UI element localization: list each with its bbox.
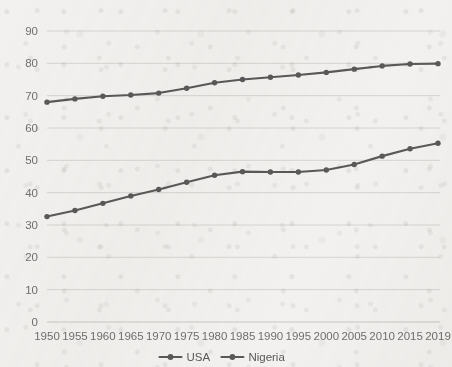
x-tick-1985: 1985 bbox=[230, 330, 256, 342]
data-point-nigeria-2005 bbox=[352, 162, 357, 167]
data-point-usa-2015 bbox=[407, 61, 412, 66]
y-tick-10: 10 bbox=[25, 284, 38, 296]
legend-label-usa: USA bbox=[187, 351, 211, 363]
data-point-nigeria-1985 bbox=[240, 169, 245, 174]
x-tick-1965: 1965 bbox=[118, 330, 144, 342]
data-point-usa-1960 bbox=[100, 94, 105, 99]
series-line-usa bbox=[47, 64, 438, 102]
x-axis-tick-labels: 1950195519601965197019751980198519901995… bbox=[34, 330, 451, 342]
chart-legend: USANigeria bbox=[160, 351, 286, 363]
legend-marker-icon bbox=[168, 354, 174, 360]
series-usa bbox=[44, 61, 440, 105]
x-tick-1980: 1980 bbox=[202, 330, 228, 342]
data-point-nigeria-2019 bbox=[435, 140, 440, 145]
x-tick-1970: 1970 bbox=[146, 330, 172, 342]
y-tick-40: 40 bbox=[25, 187, 38, 199]
y-tick-60: 60 bbox=[25, 122, 38, 134]
data-point-usa-1965 bbox=[128, 92, 133, 97]
data-point-usa-1975 bbox=[184, 86, 189, 91]
y-tick-20: 20 bbox=[25, 251, 38, 263]
y-tick-70: 70 bbox=[25, 90, 38, 102]
data-point-usa-2000 bbox=[324, 70, 329, 75]
data-point-usa-1970 bbox=[156, 90, 161, 95]
y-tick-50: 50 bbox=[25, 154, 38, 166]
x-tick-1975: 1975 bbox=[174, 330, 200, 342]
data-point-nigeria-1950 bbox=[44, 214, 49, 219]
data-point-usa-2010 bbox=[379, 63, 384, 68]
data-point-usa-1985 bbox=[240, 77, 245, 82]
x-tick-1960: 1960 bbox=[90, 330, 116, 342]
x-tick-2010: 2010 bbox=[369, 330, 395, 342]
legend-label-nigeria: Nigeria bbox=[248, 351, 285, 363]
line-chart: 0102030405060708090 19501955196019651970… bbox=[0, 0, 452, 367]
data-point-nigeria-1995 bbox=[296, 169, 301, 174]
data-point-nigeria-1965 bbox=[128, 193, 133, 198]
data-point-nigeria-1975 bbox=[184, 180, 189, 185]
data-point-usa-1995 bbox=[296, 72, 301, 77]
series-line-nigeria bbox=[47, 143, 438, 216]
data-point-usa-1950 bbox=[44, 99, 49, 104]
x-tick-1990: 1990 bbox=[258, 330, 284, 342]
gridlines bbox=[47, 31, 440, 322]
data-point-nigeria-2015 bbox=[407, 146, 412, 151]
data-point-nigeria-1955 bbox=[72, 208, 77, 213]
y-tick-90: 90 bbox=[25, 25, 38, 37]
series-layer bbox=[44, 61, 440, 219]
y-tick-80: 80 bbox=[25, 57, 38, 69]
series-nigeria bbox=[44, 140, 440, 219]
y-tick-30: 30 bbox=[25, 219, 38, 231]
data-point-nigeria-1970 bbox=[156, 187, 161, 192]
legend-item-nigeria[interactable]: Nigeria bbox=[221, 351, 285, 363]
data-point-usa-1955 bbox=[72, 96, 77, 101]
data-point-nigeria-1990 bbox=[268, 169, 273, 174]
data-point-usa-1980 bbox=[212, 80, 217, 85]
x-tick-1955: 1955 bbox=[62, 330, 88, 342]
chart-canvas: 0102030405060708090 19501955196019651970… bbox=[0, 0, 452, 367]
data-point-usa-1990 bbox=[268, 75, 273, 80]
x-tick-2000: 2000 bbox=[313, 330, 339, 342]
x-tick-2005: 2005 bbox=[341, 330, 367, 342]
legend-item-usa[interactable]: USA bbox=[160, 351, 211, 363]
data-point-nigeria-1960 bbox=[100, 201, 105, 206]
data-point-nigeria-2010 bbox=[379, 153, 384, 158]
legend-marker-icon bbox=[230, 354, 236, 360]
x-tick-2015: 2015 bbox=[397, 330, 423, 342]
data-point-nigeria-1980 bbox=[212, 173, 217, 178]
x-tick-2019: 2019 bbox=[425, 330, 451, 342]
data-point-usa-2005 bbox=[352, 66, 357, 71]
x-tick-1995: 1995 bbox=[286, 330, 312, 342]
y-axis-tick-labels: 0102030405060708090 bbox=[25, 25, 38, 328]
y-tick-0: 0 bbox=[32, 316, 38, 328]
data-point-nigeria-2000 bbox=[324, 167, 329, 172]
x-tick-1950: 1950 bbox=[34, 330, 60, 342]
data-point-usa-2019 bbox=[435, 61, 440, 66]
